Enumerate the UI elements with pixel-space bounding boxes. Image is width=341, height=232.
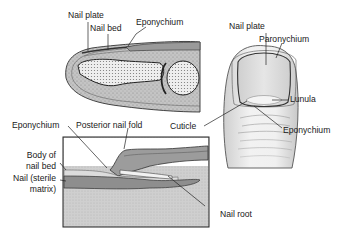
label-detail-nail-sterile-1: Nail (sterile [13,174,56,183]
label-right-nail-plate: Nail plate [229,22,265,31]
label-right-paronychium: Paronychium [259,35,309,44]
label-top-nail-bed: Nail bed [90,24,122,33]
label-detail-body-of-1: Body of [27,151,56,160]
label-top-eponychium: Eponychium [136,18,183,27]
sagittal-fingertip-panel [66,41,200,112]
label-detail-body-of-2: nail bed [26,162,56,171]
label-right-cuticle: Cuticle [170,122,196,131]
nail-fold-detail-panel [63,137,209,227]
label-detail-posterior-nail-fold: Posterior nail fold [76,121,142,130]
label-detail-eponychium: Eponychium [12,121,59,130]
label-right-lunula: Lunula [290,95,316,104]
dorsal-finger-panel [224,46,298,168]
label-detail-nail-root: Nail root [220,210,252,219]
label-detail-nail-sterile-2: matrix) [30,185,56,194]
label-right-eponychium: Eponychium [283,126,330,135]
label-top-nail-plate: Nail plate [68,11,104,20]
